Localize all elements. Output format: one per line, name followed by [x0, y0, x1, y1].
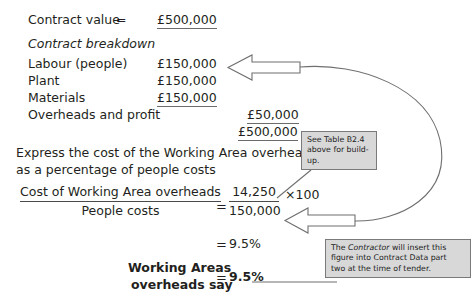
- value-fraction-numerator: 14,250: [229, 186, 279, 202]
- overheads-and-profit-amount: £50,000: [247, 109, 299, 124]
- ratio-fraction: Cost of Working Area overheads People co…: [20, 186, 221, 217]
- contract-value-label: Contract value: [28, 14, 120, 27]
- contract-value-amount: £500,000: [157, 14, 217, 29]
- result-percentage: 9.5%: [229, 238, 261, 251]
- contract-breakdown-heading: Contract breakdown: [28, 38, 155, 51]
- callout-contractor-note-emphasis: Contractor: [348, 243, 390, 252]
- arrow-to-labour: [228, 55, 300, 80]
- callout-contractor-note-line-1: The Contractor will insert this: [331, 243, 466, 253]
- callout-contractor-note-line-2: figure into Contract Data part: [331, 253, 466, 263]
- value-fraction: 14,250 150,000: [229, 186, 279, 217]
- callout-contractor-note-line-3: two at the time of tender.: [331, 264, 466, 274]
- breakdown-amount-materials: £150,000: [157, 92, 217, 107]
- multiplier-times-100: ×100: [285, 189, 319, 202]
- contract-total-amount: £500,000: [238, 126, 298, 141]
- fraction-denominator-label: People costs: [20, 202, 221, 218]
- callout-table-reference-line-1: See Table B2.4: [307, 135, 372, 145]
- callout-table-reference: See Table B2.4 above for build-up.: [301, 131, 377, 170]
- contract-value-equals: =: [116, 14, 126, 27]
- answer-equals-sign: =: [216, 271, 227, 284]
- callout-contractor-note-lead: The: [331, 243, 348, 252]
- calculation-equals-sign: =: [216, 200, 227, 213]
- breakdown-label-materials: Materials: [28, 92, 85, 105]
- breakdown-label-overheads: Overheads and profit: [28, 109, 160, 122]
- arrow-to-people-costs: [285, 208, 355, 233]
- answer-value: 9.5%: [229, 271, 264, 284]
- callout-table-reference-line-2: above for build-up.: [307, 145, 372, 166]
- callout-contractor-note-rest: will insert this: [390, 243, 447, 252]
- result-equals-sign: =: [216, 238, 227, 251]
- breakdown-amount-labour: £150,000: [157, 58, 217, 71]
- breakdown-label-plant: Plant: [28, 75, 60, 88]
- value-fraction-denominator: 150,000: [229, 202, 279, 218]
- callout-contractor-note: The Contractor will insert this figure i…: [325, 239, 471, 278]
- question-line-2: as a percentage of people costs: [16, 164, 216, 177]
- breakdown-amount-plant: £150,000: [157, 75, 217, 88]
- worksheet-page: Contract value = £500,000 Contract break…: [0, 0, 474, 298]
- breakdown-label-labour: Labour (people): [28, 58, 127, 71]
- fraction-numerator-label: Cost of Working Area overheads: [20, 186, 221, 202]
- question-line-1: Express the cost of the Working Area ove…: [16, 147, 317, 160]
